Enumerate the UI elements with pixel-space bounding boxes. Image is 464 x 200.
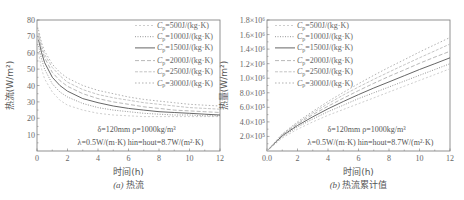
x-tick-label: 12 xyxy=(446,154,454,163)
legend-label: Cp=3000J/(kg·K) xyxy=(157,79,213,89)
series-line xyxy=(267,44,450,151)
chart-canvas: 0246810121020304050607080Cp=500J/(kg·K)C… xyxy=(0,0,464,200)
y-tick-label: 1.6×10⁶ xyxy=(240,31,266,40)
y-tick-label: 6.0×10⁵ xyxy=(240,103,266,112)
y-tick-label: 4.0×10⁵ xyxy=(240,118,266,127)
x-tick-label: 10 xyxy=(416,154,424,163)
x-tick-label: 6 xyxy=(127,154,131,163)
x-tick-label: 8 xyxy=(387,154,391,163)
annotation-line-2: λ=0.5W/(m·K) hin=hout=8.7W/(m²·K) xyxy=(78,138,204,147)
annotation-line-1: δ=120mm ρ=1000kg/m³ xyxy=(327,125,406,134)
y-tick-label: 70 xyxy=(27,32,35,41)
x-tick-label: 12 xyxy=(216,154,224,163)
legend-label: Cp=2500J/(kg·K) xyxy=(297,67,353,77)
x-tick-label: 0.0 xyxy=(262,154,272,163)
annotation-line-2: λ=0.5W/(m·K) hin=hout=8.7W/(m²·K) xyxy=(308,138,434,147)
chart-panel-heat-flux: 0246810121020304050607080Cp=500J/(kg·K)C… xyxy=(4,16,224,190)
y-tick-label: 1.0×10⁶ xyxy=(240,74,266,83)
y-tick-label: 60 xyxy=(27,49,35,58)
y-tick-label: 2.0×10⁵ xyxy=(240,132,266,141)
x-tick-label: 6 xyxy=(357,154,361,163)
y-axis-label: 热流(W/m²) xyxy=(4,61,15,110)
x-tick-label: 4 xyxy=(326,154,330,163)
figure: 0246810121020304050607080Cp=500J/(kg·K)C… xyxy=(0,0,464,200)
legend-label: Cp=1500J/(kg·K) xyxy=(297,43,353,53)
y-tick-label: 1.2×10⁶ xyxy=(240,60,266,69)
legend-label: Cp=2000J/(kg·K) xyxy=(157,56,213,66)
x-axis-label: 时间(h) xyxy=(113,166,144,177)
x-tick-label: 10 xyxy=(186,154,194,163)
y-tick-label: 1.8×10⁶ xyxy=(240,16,266,25)
legend-label: Cp=2000J/(kg·K) xyxy=(297,56,353,66)
y-tick-label: 20 xyxy=(27,114,35,123)
y-tick-label: 80 xyxy=(27,16,35,25)
x-tick-label: 8 xyxy=(157,154,161,163)
y-tick-label: 40 xyxy=(27,82,35,91)
series-line xyxy=(267,51,450,151)
legend-label: Cp=500J/(kg·K) xyxy=(297,21,349,31)
y-axis-label: 热量(W/m²) xyxy=(218,61,229,110)
x-tick-label: 0 xyxy=(35,154,39,163)
y-tick-label: 50 xyxy=(27,65,35,74)
legend-label: Cp=500J/(kg·K) xyxy=(157,21,209,31)
y-tick-label: 10 xyxy=(27,131,35,140)
y-tick-label: 1.4×10⁶ xyxy=(240,45,266,54)
legend-label: Cp=3000J/(kg·K) xyxy=(297,79,353,89)
panel-caption: (b) 热流累计值 xyxy=(330,179,388,190)
legend-label: Cp=1000J/(kg·K) xyxy=(157,32,213,42)
legend-label: Cp=1000J/(kg·K) xyxy=(297,32,353,42)
x-tick-label: 4 xyxy=(96,154,100,163)
annotation-line-1: δ=120mm ρ=1000kg/m³ xyxy=(97,125,176,134)
x-tick-label: 2 xyxy=(66,154,70,163)
y-tick-label: 30 xyxy=(27,98,35,107)
chart-panel-cumulative-heat: 0.0246810122.0×10⁵4.0×10⁵6.0×10⁵8.0×10⁵1… xyxy=(218,16,454,190)
legend-label: Cp=1500J/(kg·K) xyxy=(157,43,213,53)
legend-label: Cp=2500J/(kg·K) xyxy=(157,67,213,77)
x-tick-label: 2 xyxy=(296,154,300,163)
x-axis-label: 时间(h) xyxy=(343,166,374,177)
panel-caption: (a) 热流 xyxy=(113,179,144,190)
y-tick-label: 8.0×10⁵ xyxy=(240,89,266,98)
